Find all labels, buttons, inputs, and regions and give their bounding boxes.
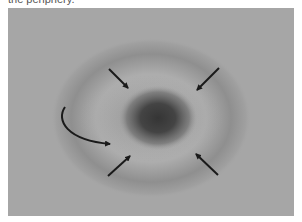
dark-center-spot [116,84,200,152]
figure-rendering [8,8,294,216]
caption-text-fragment: the periphery. [8,0,74,5]
grayscale-figure [8,8,294,216]
